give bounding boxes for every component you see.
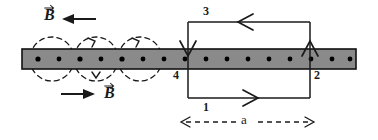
wire-dot <box>267 57 272 62</box>
loop-side-label-1: 1 <box>203 101 209 113</box>
wire-dot <box>288 57 293 62</box>
wire-dot <box>183 57 188 62</box>
wire-dot <box>99 57 104 62</box>
b-top-arrow-head <box>62 14 74 24</box>
wire-dot <box>119 56 124 61</box>
current-carrying-wire <box>22 49 356 69</box>
physics-figure: B B 3 1 4 2 a <box>0 0 378 140</box>
dimension-line-a <box>181 117 314 127</box>
b-field-label-bottom: B <box>104 85 115 101</box>
vector-arrow-overbar-icon <box>44 4 55 11</box>
wire-dot <box>204 57 209 62</box>
wire-dot <box>77 56 82 61</box>
loop-side-label-4: 4 <box>173 69 179 81</box>
dimension-label-a: a <box>241 113 247 126</box>
loop-side-label-2: 2 <box>314 69 320 81</box>
wire-dot <box>225 57 230 62</box>
wire-dot <box>330 57 335 62</box>
loop-side-label-3: 3 <box>203 5 209 17</box>
vector-arrow-overbar-icon <box>104 82 115 89</box>
b-bottom-arrow-head <box>83 89 95 99</box>
field-arrowhead-1 <box>88 38 95 47</box>
b-field-label-top: B <box>44 7 55 23</box>
wire-dot <box>246 57 251 62</box>
field-arrowhead-3 <box>92 72 100 78</box>
wire-dot <box>162 57 167 62</box>
wire-dot <box>57 57 62 62</box>
figure-canvas <box>0 0 378 140</box>
wire-dot <box>141 57 146 62</box>
field-arrowhead-2 <box>132 38 139 47</box>
wire-dot <box>35 56 40 61</box>
wire-dot <box>348 57 353 62</box>
